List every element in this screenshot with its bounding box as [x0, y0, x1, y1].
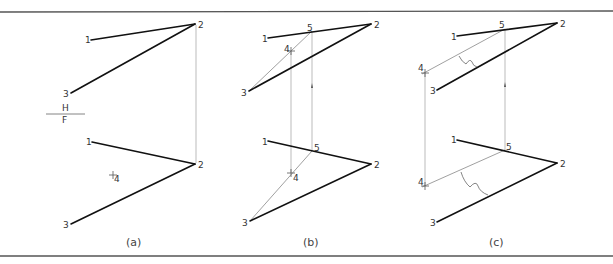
label-front-1: 1	[86, 137, 92, 147]
label-front-1: 1	[451, 135, 457, 145]
label-top-1: 1	[85, 35, 91, 45]
label-front-2: 2	[560, 159, 566, 169]
caption-a: (a)	[126, 236, 141, 249]
fold-label-f: F	[62, 115, 67, 125]
label-front-1: 1	[262, 137, 268, 147]
top-line-1-2	[457, 23, 557, 36]
label-front-4: 4	[293, 173, 299, 183]
caption-b: (b)	[303, 236, 319, 249]
caption-c: (c)	[489, 236, 504, 249]
panel-c: 1 2 3 4 5 1 2 3 4 5 (c)	[418, 19, 566, 249]
front-line-3-2	[250, 164, 371, 221]
fold-label-h: H	[62, 103, 69, 113]
panel-b: 1 2 3 4 5 1 2 3 4 5 (b)	[241, 20, 380, 249]
label-front-2: 2	[198, 160, 204, 170]
label-front-5: 5	[314, 143, 320, 153]
label-top-2: 2	[198, 20, 204, 30]
label-top-5: 5	[499, 20, 505, 30]
label-top-2: 2	[374, 20, 380, 30]
perpendicular-distance-marker-front	[461, 172, 488, 195]
top-line-1-2	[268, 24, 371, 38]
label-top-2: 2	[560, 19, 566, 29]
front-line-4-5	[422, 150, 505, 187]
label-top-4: 4	[284, 44, 290, 54]
label-top-1: 1	[451, 32, 457, 42]
label-top-3: 3	[63, 89, 69, 99]
arrow-mark	[311, 83, 313, 88]
front-line-1-2	[92, 142, 195, 164]
label-top-5: 5	[307, 23, 313, 33]
top-frame-line	[0, 11, 613, 12]
arrow-mark	[504, 82, 506, 87]
label-front-3: 3	[430, 218, 436, 228]
label-top-3: 3	[241, 88, 247, 98]
perpendicular-distance-marker-top	[459, 56, 477, 67]
panel-a: 1 2 3 H F 1 2 3 4 (a)	[46, 20, 204, 249]
label-top-4: 4	[418, 63, 424, 73]
label-top-1: 1	[262, 34, 268, 44]
front-line-3-5	[250, 151, 312, 221]
label-front-4: 4	[114, 174, 120, 184]
label-front-3: 3	[63, 220, 69, 230]
front-line-3-2	[71, 164, 195, 224]
front-line-3-2	[437, 163, 557, 222]
label-top-3: 3	[430, 86, 436, 96]
label-front-4: 4	[418, 177, 424, 187]
descriptive-geometry-figure: 1 2 3 H F 1 2 3 4 (a) 1	[0, 0, 613, 264]
label-front-5: 5	[506, 142, 512, 152]
label-front-3: 3	[242, 218, 248, 228]
label-front-2: 2	[374, 160, 380, 170]
